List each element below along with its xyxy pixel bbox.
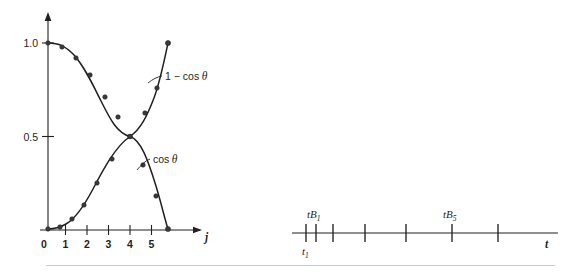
timeline-axis-label: t bbox=[545, 238, 549, 250]
markers-cos-theta bbox=[46, 41, 171, 232]
x-axis bbox=[40, 227, 202, 233]
timeline-label-tb1-sub: 1 bbox=[317, 214, 321, 223]
x-tick-label-4: 4 bbox=[127, 238, 133, 250]
curve-label-cos-theta: cosθ bbox=[153, 153, 178, 165]
timeline-label-tb1-main: tB bbox=[307, 208, 317, 220]
timeline-label-tb1: tB1 bbox=[307, 208, 321, 223]
theta-glyph-rise: θ bbox=[202, 70, 208, 82]
x-axis-label: j bbox=[203, 231, 209, 244]
timeline-label-tb5-main: tB bbox=[443, 208, 453, 220]
timeline-label-tb5-sub: 5 bbox=[453, 214, 457, 223]
curve-label-one-minus-cos-text: 1 − cos bbox=[165, 70, 199, 82]
x-tick-label-2: 2 bbox=[84, 238, 90, 250]
figure-canvas: 1.0 0.5 0 1 2 3 4 5 j bbox=[0, 0, 581, 276]
curve-label-cos-text: cos bbox=[153, 153, 169, 165]
timeline-label-tb5: tB5 bbox=[443, 208, 457, 223]
x-tick-label-5: 5 bbox=[149, 238, 155, 250]
timeline-label-t1: t1 bbox=[302, 245, 309, 260]
figure-root: 1.0 0.5 0 1 2 3 4 5 j bbox=[0, 0, 581, 276]
left-plot: 1.0 0.5 0 1 2 3 4 5 j bbox=[23, 12, 209, 250]
timeline-label-t1-sub: 1 bbox=[305, 251, 309, 260]
x-tick-label-0: 0 bbox=[41, 238, 47, 250]
x-tick-label-3: 3 bbox=[106, 238, 112, 250]
y-axis-arrowhead bbox=[45, 12, 52, 21]
right-timeline: tB1 tB5 t1 t bbox=[292, 208, 558, 260]
theta-glyph-fall: θ bbox=[172, 153, 178, 165]
x-tick-label-1: 1 bbox=[63, 238, 69, 250]
y-tick-label-1p0: 1.0 bbox=[23, 37, 38, 49]
x-axis-arrowhead bbox=[193, 227, 202, 233]
curve-one-minus-cos-theta bbox=[48, 43, 168, 229]
y-tick-label-0p5: 0.5 bbox=[23, 131, 38, 143]
bottom-divider-rule bbox=[46, 265, 555, 266]
curve-label-one-minus-cos-theta: 1 − cosθ bbox=[165, 70, 208, 82]
annotation-one-minus-cos-theta: 1 − cosθ bbox=[148, 70, 208, 83]
markers-one-minus-cos-theta bbox=[46, 40, 171, 231]
curve-cos-theta bbox=[48, 43, 168, 229]
